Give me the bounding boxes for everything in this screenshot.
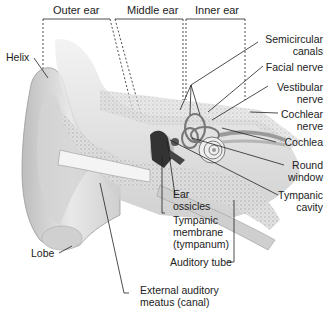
- label-external-auditory-meatus: External auditory meatus (canal): [140, 284, 219, 308]
- region-label-outer-ear: Outer ear: [53, 4, 99, 16]
- label-round-window: Round window: [288, 159, 323, 183]
- label-facial-nerve: Facial nerve: [266, 61, 323, 73]
- label-cochlea: Cochlea: [284, 136, 323, 148]
- label-tympanic-membrane: Tympanic membrane (tympanum): [173, 214, 229, 250]
- region-label-middle-ear: Middle ear: [127, 4, 178, 16]
- ear-anatomy-diagram: Outer ear Middle ear Inner ear Helix Lob…: [0, 0, 330, 314]
- label-auditory-tube: Auditory tube: [170, 256, 232, 268]
- label-semicircular-canals: Semicircular canals: [265, 33, 323, 57]
- label-ear-ossicles: Ear ossicles: [173, 188, 210, 212]
- label-cochlear-nerve: Cochlear nerve: [281, 108, 323, 132]
- label-vestibular-nerve: Vestibular nerve: [277, 81, 323, 105]
- label-lobe: Lobe: [31, 247, 54, 259]
- region-label-inner-ear: Inner ear: [195, 4, 239, 16]
- label-helix: Helix: [6, 51, 29, 63]
- label-tympanic-cavity: Tympanic cavity: [278, 189, 323, 213]
